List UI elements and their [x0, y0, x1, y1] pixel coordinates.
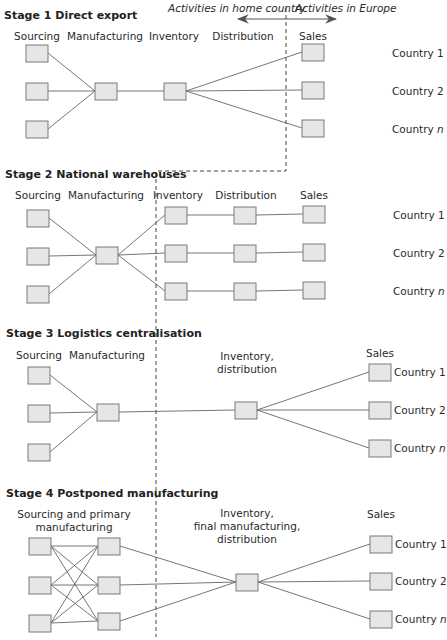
s2-col-sourcing: Sourcing: [15, 189, 61, 201]
s4-country-2: Country 2: [395, 575, 447, 587]
s3-col-distribution: distribution: [217, 363, 277, 375]
s1-sales-2: [302, 82, 324, 99]
stage-1-title: Stage 1 Direct export: [4, 9, 137, 22]
s1-col-sales: Sales: [299, 30, 327, 42]
s2-col-sales: Sales: [300, 189, 328, 201]
s1-col-manufacturing: Manufacturing: [67, 30, 143, 42]
s3-col-manufacturing: Manufacturing: [69, 349, 145, 361]
s4-col-sales: Sales: [367, 508, 395, 520]
s2-col-distribution: Distribution: [215, 189, 276, 201]
stage-4-title: Stage 4 Postponed manufacturing: [6, 487, 218, 500]
s2-col-inventory: Inventory: [153, 189, 203, 201]
s3-country-1: Country 1: [394, 366, 446, 378]
s3-country-n: Country n: [394, 442, 446, 454]
s3-country-2: Country 2: [394, 404, 446, 416]
s1-inventory: [164, 83, 186, 100]
s1-country-1: Country 1: [392, 47, 444, 59]
s4-col-primary-manufacturing: manufacturing: [35, 521, 112, 533]
s1-sourcing-2: [26, 83, 48, 100]
s1-sourcing-1: [26, 45, 48, 62]
s4-country-n: Country n: [395, 613, 447, 625]
s4-col-inventory: Inventory,: [220, 507, 274, 519]
s4-col-distribution: distribution: [217, 533, 277, 545]
home-country-label: Activities in home country: [168, 2, 306, 14]
s1-sales-n: [302, 120, 324, 137]
s1-manufacturing: [95, 83, 117, 100]
s4-country-1: Country 1: [395, 538, 447, 550]
europe-label: Activities in Europe: [295, 2, 397, 14]
s1-col-sourcing: Sourcing: [14, 30, 60, 42]
s4-col-final-manufacturing: final manufacturing,: [194, 520, 301, 532]
s3-col-sales: Sales: [366, 347, 394, 359]
s3-col-inventory: Inventory,: [220, 350, 274, 362]
s1-col-distribution: Distribution: [212, 30, 273, 42]
s1-sourcing-3: [26, 121, 48, 138]
s2-country-1: Country 1: [393, 209, 445, 221]
s1-country-2: Country 2: [392, 85, 444, 97]
stage-3-title: Stage 3 Logistics centralisation: [6, 327, 202, 340]
s4-col-sourcing: Sourcing and primary: [17, 508, 130, 520]
s2-col-manufacturing: Manufacturing: [68, 189, 144, 201]
s3-col-sourcing: Sourcing: [16, 349, 62, 361]
stage-2-title: Stage 2 National warehouses: [5, 168, 187, 181]
s2-country-n: Country n: [393, 285, 445, 297]
s1-sales-1: [302, 44, 324, 61]
s2-country-2: Country 2: [393, 247, 445, 259]
s1-country-n: Country n: [392, 123, 444, 135]
s1-col-inventory: Inventory: [149, 30, 199, 42]
